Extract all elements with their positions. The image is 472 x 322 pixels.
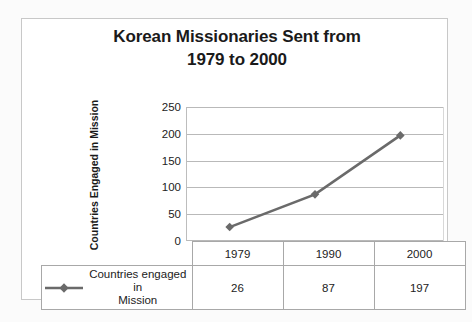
legend-cell: Countries engaged in Mission [42,266,193,310]
table-header-row: 1979 1990 2000 [42,242,466,266]
table-corner-cell [42,242,193,266]
data-table: 1979 1990 2000 Countries engaged in Miss… [41,241,466,310]
legend-label-line-2: Mission [118,294,157,306]
y-axis-title: Countries Engaged in Mission [88,85,100,265]
series-polyline [230,135,401,227]
table-row: Countries engaged in Mission 26 87 197 [42,266,466,310]
chart-title-line-1: Korean Missionaries Sent from [113,27,360,46]
y-axis-tick-label: 250 [162,101,181,113]
y-axis-tick-label: 50 [168,208,181,220]
data-point-marker [225,223,234,232]
table-header-cell: 1990 [283,242,374,266]
table-data-cell: 197 [374,266,465,310]
legend-line-marker-icon [44,281,84,295]
y-axis-tick-label: 150 [162,155,181,167]
table-data-cell: 87 [283,266,374,310]
table-header-cell: 2000 [374,242,465,266]
plot-area: 050100150200250 [186,107,444,241]
table-data-cell: 26 [192,266,283,310]
y-axis-tick-label: 200 [162,128,181,140]
series-line [187,107,443,241]
legend-label-line-1: Countries engaged in [89,268,186,293]
table-header-cell: 1979 [192,242,283,266]
chart-title-line-2: 1979 to 2000 [52,48,422,71]
y-axis-tick-label: 100 [162,181,181,193]
chart-frame: Korean Missionaries Sent from 1979 to 20… [21,18,448,300]
legend-label: Countries engaged in Mission [86,268,190,307]
chart-title: Korean Missionaries Sent from 1979 to 20… [52,25,422,71]
